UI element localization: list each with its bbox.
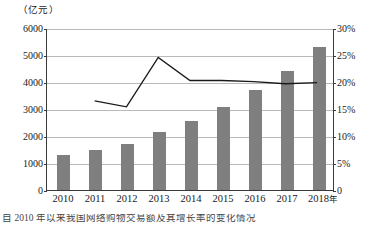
bar — [313, 47, 326, 189]
left-axis-tick-mark — [44, 110, 47, 111]
x-axis-tick-label: 2012 — [117, 193, 138, 204]
bar — [57, 155, 70, 189]
left-axis-tick-mark — [44, 29, 47, 30]
left-axis-tick-mark — [44, 191, 47, 192]
left-axis-tick-label: 0 — [38, 186, 43, 196]
right-axis-tick-label: 30% — [337, 24, 355, 34]
x-axis-tick-label: 2018年 — [308, 193, 338, 205]
x-axis-tick-label: 2011 — [85, 193, 106, 204]
x-axis-tick-label: 2017 — [277, 193, 298, 204]
bar — [185, 121, 198, 190]
bar — [249, 90, 262, 189]
x-axis-unit-suffix: 年 — [329, 194, 338, 204]
right-axis-tick-mark — [333, 56, 336, 57]
right-axis-tick-label: 15% — [337, 105, 355, 115]
right-axis-tick-mark — [333, 110, 336, 111]
left-axis-tick-mark — [44, 83, 47, 84]
left-axis-tick-label: 5000 — [23, 51, 43, 61]
left-axis-tick-label: 3000 — [23, 105, 43, 115]
right-axis-tick-mark — [333, 137, 336, 138]
bar — [121, 144, 134, 190]
right-axis-tick-label: 25% — [337, 51, 355, 61]
x-axis-tick-label: 2015 — [213, 193, 234, 204]
x-axis-tick-label: 2013 — [149, 193, 170, 204]
right-axis-tick-mark — [333, 191, 336, 192]
right-axis-tick-label: 5% — [337, 159, 350, 169]
right-axis-tick-mark — [333, 164, 336, 165]
bar — [89, 150, 102, 190]
right-axis-tick-mark — [333, 29, 336, 30]
plot-area: 0100020003000400050006000 05%10%15%20%25… — [46, 29, 334, 191]
left-axis-tick-label: 6000 — [23, 24, 43, 34]
right-axis-tick-label: 20% — [337, 78, 355, 88]
left-axis-tick-mark — [44, 137, 47, 138]
x-axis-tick-label: 2010 — [53, 193, 74, 204]
left-axis-tick-label: 2000 — [23, 132, 43, 142]
left-axis-tick-label: 1000 — [23, 159, 43, 169]
x-axis-tick-label: 2014 — [181, 193, 202, 204]
left-axis-tick-label: 4000 — [23, 78, 43, 88]
gridline — [47, 29, 333, 30]
left-axis-tick-mark — [44, 56, 47, 57]
left-axis-tick-mark — [44, 164, 47, 165]
y-axis-unit-label: （亿元） — [18, 2, 59, 16]
gridline — [47, 56, 333, 57]
bar — [217, 107, 230, 190]
x-axis-tick-label: 2016 — [245, 193, 266, 204]
right-axis-tick-label: 10% — [337, 132, 355, 142]
bar — [153, 132, 166, 189]
right-axis-tick-mark — [333, 83, 336, 84]
chart-figure: （亿元） 0100020003000400050006000 05%10%15%… — [0, 0, 384, 228]
bar — [281, 71, 294, 189]
figure-caption: 自 2010 年以来我国网络购物交易额及其增长率的变化情况 — [2, 214, 256, 224]
caption-strip: 自 2010 年以来我国网络购物交易额及其增长率的变化情况 — [0, 214, 384, 228]
